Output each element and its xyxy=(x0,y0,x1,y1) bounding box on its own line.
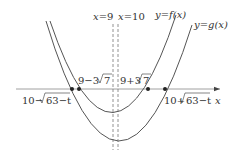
svg-text:9−3: 9−3 xyxy=(78,75,99,86)
root-point-f-right xyxy=(146,87,150,91)
svg-text:10−: 10− xyxy=(22,95,43,106)
root-point-g-right xyxy=(163,87,167,91)
label-yg: y=g(x) xyxy=(193,19,228,30)
label-f-left-root: 9−3 7 xyxy=(78,74,112,86)
label-g-right-root: 10+ 63−t xyxy=(164,93,211,106)
svg-text:63−t: 63−t xyxy=(186,95,211,106)
svg-text:63−t: 63−t xyxy=(46,95,71,106)
svg-text:10+: 10+ xyxy=(164,95,185,106)
function-graph: x x=9 x=10 y=f(x) y=g(x) 9−3 7 9+3 7 10−… xyxy=(0,0,241,150)
label-x10: x=10 xyxy=(118,11,145,22)
label-f-right-root: 9+3 7 xyxy=(120,74,151,86)
label-yf: y=f(x) xyxy=(154,9,186,20)
label-g-left-root: 10− 63−t xyxy=(22,93,71,106)
svg-text:7: 7 xyxy=(104,75,110,86)
label-x9: x=9 xyxy=(93,11,113,22)
curve-g xyxy=(46,21,192,141)
x-axis-arrow-icon xyxy=(214,87,220,91)
root-point-f-left xyxy=(77,87,81,91)
root-point-g-left xyxy=(70,87,74,91)
svg-text:7: 7 xyxy=(143,75,149,86)
x-axis-label: x xyxy=(215,95,221,106)
